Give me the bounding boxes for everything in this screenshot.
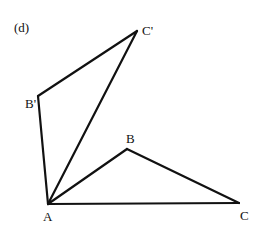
edge-b-c: [127, 149, 239, 203]
panel-label: (d): [14, 21, 29, 34]
vertex-label-b-prime: B': [25, 97, 36, 110]
edge-a-b-prime: [38, 96, 48, 204]
triangle-edges: [38, 31, 239, 204]
vertex-label-b: B: [126, 132, 135, 145]
geometry-diagram: [0, 0, 257, 231]
vertex-label-a: A: [43, 210, 52, 223]
vertex-label-c: C: [240, 209, 249, 222]
edge-b-prime-c-prime: [38, 31, 137, 96]
vertex-label-c-prime: C': [142, 24, 153, 37]
edge-a-b: [48, 149, 127, 204]
edge-a-c: [48, 203, 239, 204]
edge-a-c-prime: [48, 31, 137, 204]
